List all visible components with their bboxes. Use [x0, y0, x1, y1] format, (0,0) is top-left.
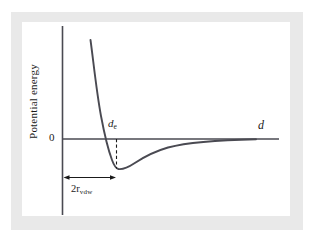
vdw-diameter-label: 2rvdw: [71, 184, 92, 196]
potential-energy-curve: [91, 40, 257, 169]
x-axis-label: d: [258, 119, 264, 131]
y-axis-label: Potential energy: [28, 47, 39, 157]
equilibrium-distance-subscript: e: [114, 122, 117, 131]
vdw-measure-arrow: [64, 175, 117, 180]
vdw-diameter-subscript: vdw: [80, 188, 93, 196]
equilibrium-distance-label: de: [108, 118, 117, 131]
potential-energy-figure: Potential energy 0 de d 2rvdw: [0, 0, 314, 244]
zero-tick-label: 0: [49, 132, 55, 143]
plot-drawing: [0, 0, 314, 244]
vdw-diameter-symbol: 2r: [71, 183, 80, 194]
